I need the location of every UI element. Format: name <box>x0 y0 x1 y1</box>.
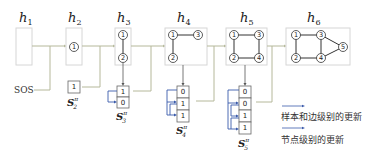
svg-text:1: 1 <box>181 112 185 120</box>
svg-text:Sπ4: Sπ4 <box>176 123 188 138</box>
svg-text:3: 3 <box>257 31 261 39</box>
svg-text:1: 1 <box>72 83 76 91</box>
connector-s2 <box>82 46 100 87</box>
svg-text:3: 3 <box>196 31 200 39</box>
svg-text:4: 4 <box>319 54 323 62</box>
vector-s2: 1 Sπ2 <box>67 81 80 110</box>
svg-text:0: 0 <box>121 99 125 107</box>
legend: 样本和边级别的更新 节点级别的更新 <box>281 105 362 145</box>
svg-text:Sπ2: Sπ2 <box>67 95 79 110</box>
svg-text:1: 1 <box>232 31 236 39</box>
svg-text:5: 5 <box>341 43 345 51</box>
h1-frame <box>16 28 32 65</box>
svg-text:1: 1 <box>243 112 247 120</box>
vector-s5: 0 0 1 1 Sπ5 <box>228 86 251 151</box>
svg-text:3: 3 <box>319 31 323 39</box>
svg-text:2: 2 <box>294 54 298 62</box>
h2-label: h2 <box>68 10 81 27</box>
legend-label-node-level: 节点级别的更新 <box>281 134 344 145</box>
vector-s3: 1 0 Sπ3 <box>108 86 129 124</box>
svg-text:0: 0 <box>181 88 185 96</box>
h3-label: h3 <box>117 10 130 27</box>
legend-label-edge-level: 样本和边级别的更新 <box>281 111 362 122</box>
svg-text:Sπ3: Sπ3 <box>116 109 128 124</box>
sos-token: SOS <box>14 85 34 95</box>
h5-label: h5 <box>240 10 253 27</box>
svg-text:0: 0 <box>243 100 247 108</box>
svg-text:0: 0 <box>243 88 247 96</box>
vector-s4: 0 1 1 Sπ4 <box>167 86 189 138</box>
svg-text:1: 1 <box>243 124 247 132</box>
connector-s3 <box>133 46 151 91</box>
graph-h2: 1 <box>70 43 79 52</box>
svg-text:1: 1 <box>121 88 125 96</box>
svg-text:4: 4 <box>257 54 261 62</box>
svg-text:1: 1 <box>181 100 185 108</box>
h1-label: h1 <box>19 10 32 27</box>
connector-sos <box>34 46 50 90</box>
svg-text:2: 2 <box>121 54 125 62</box>
h4-label: h4 <box>177 10 190 27</box>
svg-text:1: 1 <box>294 31 298 39</box>
svg-text:1: 1 <box>121 31 125 39</box>
svg-text:1: 1 <box>171 31 175 39</box>
svg-text:1: 1 <box>72 43 76 51</box>
graphrnn-diagram: h1 h2 h3 h4 h5 h6 1 1 2 1 2 3 <box>0 0 384 156</box>
svg-text:2: 2 <box>232 54 236 62</box>
svg-text:2: 2 <box>171 54 175 62</box>
svg-text:Sπ5: Sπ5 <box>238 136 250 151</box>
h6-label: h6 <box>307 10 320 27</box>
